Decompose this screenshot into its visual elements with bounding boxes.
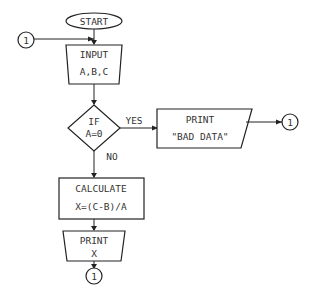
print-bad-line2: "BAD DATA" (171, 131, 228, 142)
print-x-line1: PRINT (80, 235, 109, 246)
no-label: NO (106, 151, 118, 162)
input-block: INPUT A,B,C (66, 45, 122, 84)
print-x-line2: X (91, 248, 97, 259)
decision-line2: A=0 (85, 128, 102, 139)
connector-in-label: 1 (23, 35, 29, 46)
connector-yes: 1 (282, 114, 298, 130)
start-terminator: START (66, 13, 122, 29)
connector-end-label: 1 (91, 271, 97, 282)
decision-block: IF A=0 (68, 105, 120, 151)
yes-label: YES (125, 115, 142, 126)
calculate-line2: X=(C-B)/A (75, 201, 127, 212)
decision-line1: IF (88, 116, 100, 127)
calculate-block: CALCULATE X=(C-B)/A (59, 178, 144, 219)
input-line2: A,B,C (80, 66, 109, 77)
connector-end: 1 (86, 268, 102, 284)
connector-yes-label: 1 (287, 117, 293, 128)
print-bad-line1: PRINT (186, 114, 215, 125)
start-label: START (80, 16, 109, 27)
print-x-block: PRINT X (63, 231, 125, 261)
connector-in: 1 (18, 32, 34, 48)
flowchart-diagram: START 1 INPUT A,B,C IF A=0 YES NO PRINT … (0, 0, 314, 292)
print-bad-data-block: PRINT "BAD DATA" (157, 109, 252, 148)
input-line1: INPUT (80, 49, 109, 60)
calculate-line1: CALCULATE (75, 183, 127, 194)
